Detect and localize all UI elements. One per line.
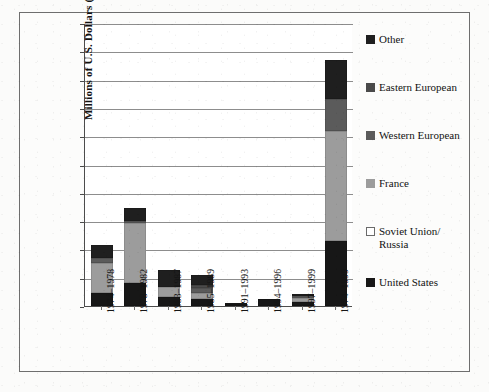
x-axis-tick-label: 1997–1999	[306, 269, 317, 313]
legend-swatch-icon	[366, 83, 375, 92]
bar-segment[interactable]	[325, 60, 347, 100]
legend-item[interactable]: Eastern European	[366, 81, 457, 94]
plot-area	[84, 24, 352, 307]
bar-slot	[91, 23, 113, 306]
x-axis-tick-mark	[335, 306, 336, 310]
bar-slot	[191, 23, 213, 306]
y-axis-tick-mark	[80, 137, 84, 138]
legend-label: Eastern European	[379, 81, 457, 94]
x-axis-tick-label: 1991–1993	[239, 269, 250, 313]
legend-item[interactable]: France	[366, 177, 409, 190]
legend-item[interactable]: Soviet Union/ Russia	[366, 225, 440, 250]
legend-label: United States	[379, 276, 438, 289]
x-axis-tick-mark	[168, 306, 169, 310]
legend-label: France	[379, 177, 409, 190]
x-axis-tick-mark	[268, 306, 269, 310]
x-axis-tick-label: 1994–1996	[272, 269, 283, 313]
bar-slot	[225, 23, 247, 306]
legend-item[interactable]: Western European	[366, 129, 460, 142]
x-axis-tick-mark	[101, 306, 102, 310]
bar-slot	[258, 23, 280, 306]
x-axis-tick-label: 1983–1987	[172, 269, 183, 313]
y-axis-tick-mark	[80, 166, 84, 167]
y-axis-tick-mark	[80, 307, 84, 308]
chart-page: 10,0009,0008,0007,0006,0005,0004,0003,00…	[0, 0, 489, 392]
y-axis-title: Millions of U.S. Dollars (2004)	[82, 0, 94, 120]
x-axis-tick-mark	[302, 306, 303, 310]
y-axis-tick-mark	[80, 222, 84, 223]
x-axis-tick-mark	[134, 306, 135, 310]
legend-swatch-icon	[366, 179, 375, 188]
legend-swatch-icon	[366, 131, 375, 140]
y-axis-tick-mark	[80, 194, 84, 195]
bar-segment[interactable]	[91, 245, 113, 257]
bar-segment[interactable]	[325, 99, 347, 130]
x-axis-tick-mark	[201, 306, 202, 310]
legend-label: Other	[379, 33, 404, 46]
legend-item[interactable]: Other	[366, 33, 404, 46]
x-axis-tick-label: 1974–1999	[339, 269, 350, 313]
x-axis-tick-label: 1974–1978	[105, 269, 116, 313]
plot-wrapper: 10,0009,0008,0007,0006,0005,0004,0003,00…	[84, 24, 352, 307]
legend-item[interactable]: United States	[366, 276, 438, 289]
legend-label: Soviet Union/ Russia	[379, 225, 440, 250]
y-axis-tick-mark	[80, 250, 84, 251]
legend-swatch-icon	[366, 227, 375, 236]
x-axis-tick-mark	[235, 306, 236, 310]
bar-segment[interactable]	[325, 131, 347, 241]
bar-segment[interactable]	[124, 208, 146, 220]
bar-slot	[292, 23, 314, 306]
legend-swatch-icon	[366, 278, 375, 287]
y-axis-tick-mark	[80, 279, 84, 280]
x-axis-tick-label: 1985–1989	[205, 269, 216, 313]
bar-slot	[124, 23, 146, 306]
bar-series-group	[85, 23, 353, 306]
legend-label: Western European	[379, 129, 460, 142]
x-axis-tick-label: 1978–1982	[138, 269, 149, 313]
bar-slot	[325, 23, 347, 306]
x-axis-labels: 1974–19781978–19821983–19871985–19891991…	[84, 310, 352, 372]
legend-swatch-icon	[366, 35, 375, 44]
bar-slot	[158, 23, 180, 306]
